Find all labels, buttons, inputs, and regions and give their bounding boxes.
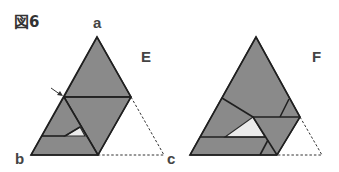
panel-e-top-piece	[64, 37, 131, 97]
panel-e-label: E	[141, 48, 151, 65]
panel-e-arrow-marker	[51, 88, 63, 96]
figure-title: 図6	[14, 13, 39, 31]
panel-f: F	[190, 37, 322, 155]
panel-e: a b c E	[15, 14, 175, 167]
arrow-head-icon	[57, 91, 63, 96]
figure-canvas: 図6 a b c E	[0, 0, 339, 172]
vertex-label-b: b	[15, 150, 24, 167]
vertex-label-a: a	[93, 14, 102, 31]
vertex-label-c: c	[167, 150, 175, 167]
panel-f-label: F	[312, 48, 321, 65]
